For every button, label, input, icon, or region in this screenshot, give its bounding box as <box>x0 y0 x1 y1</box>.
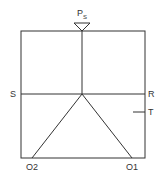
source-label: PS <box>77 9 87 20</box>
diagonal-line-left <box>32 94 82 158</box>
label-t: T <box>148 108 154 117</box>
diagonal-line-right <box>82 94 132 158</box>
label-o2: O2 <box>26 163 38 172</box>
diagram-canvas <box>0 0 163 187</box>
source-triangle-icon <box>74 23 90 31</box>
label-s: S <box>10 90 16 99</box>
label-o1: O1 <box>126 163 138 172</box>
label-r: R <box>148 90 155 99</box>
